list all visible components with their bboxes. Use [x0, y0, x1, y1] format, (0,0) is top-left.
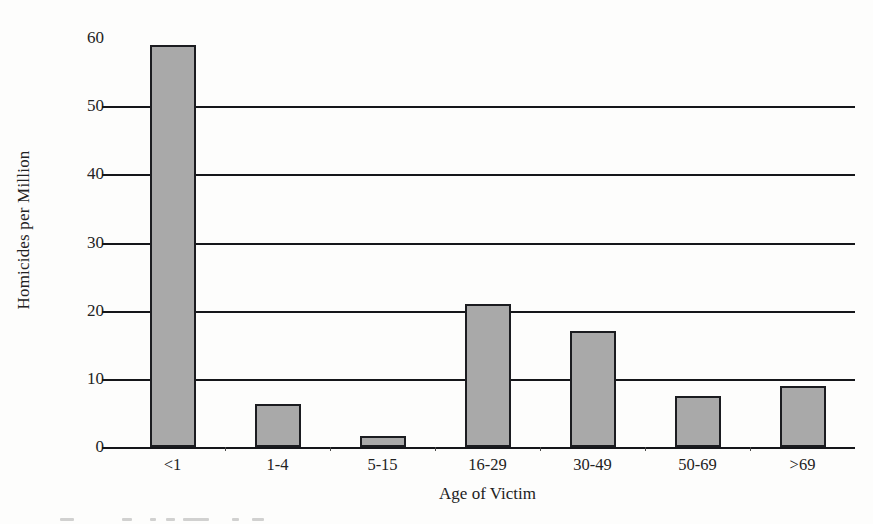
y-tick-label-30: 30 [58, 233, 104, 253]
y-axis-tick-labels: 0102030405060 [48, 38, 104, 447]
gridline-30 [102, 243, 855, 245]
x-tick-label-1-4: 1-4 [267, 455, 289, 475]
scan-artifact [122, 518, 132, 521]
scan-artifact [60, 518, 74, 521]
bar-16-29 [465, 304, 511, 447]
scan-artifact [252, 518, 264, 521]
scan-artifact-row [0, 512, 873, 524]
y-tick-label-0: 0 [58, 437, 104, 457]
x-axis-tick-0 [225, 447, 226, 451]
x-axis-tick-1 [330, 447, 331, 451]
y-tick-label-20: 20 [58, 301, 104, 321]
x-axis-line [102, 447, 855, 449]
x-axis-title: Age of Victim [120, 484, 855, 504]
bar-50-69 [675, 396, 721, 447]
bar-chart-figure: Homicides per Million 0102030405060 <11-… [0, 0, 873, 524]
scan-artifact [232, 518, 239, 521]
x-tick-label-50-69: 50-69 [678, 455, 717, 475]
y-axis-title-text: Homicides per Million [14, 150, 34, 309]
gridline-50 [102, 106, 855, 108]
y-tick-label-60: 60 [58, 28, 104, 48]
bar-5-15 [360, 436, 406, 447]
x-axis-tick-5 [750, 447, 751, 451]
x-tick-label->69: >69 [790, 455, 816, 475]
x-axis-tick-3 [540, 447, 541, 451]
x-tick-label-<1: <1 [164, 455, 182, 475]
bar-<1 [150, 45, 196, 447]
x-axis-tick-4 [645, 447, 646, 451]
y-tick-label-40: 40 [58, 164, 104, 184]
x-tick-label-16-29: 16-29 [468, 455, 507, 475]
scan-artifact [183, 518, 209, 521]
y-tick-label-10: 10 [58, 369, 104, 389]
y-tick-label-50: 50 [58, 96, 104, 116]
y-axis-title: Homicides per Million [0, 0, 48, 460]
plot-area [120, 38, 855, 447]
bar-30-49 [570, 331, 616, 447]
x-axis-tick-2 [435, 447, 436, 451]
scan-artifact [166, 518, 175, 521]
x-axis-tick-labels: <11-45-1516-2930-4950-69>69 [120, 455, 855, 481]
x-tick-label-5-15: 5-15 [367, 455, 397, 475]
gridline-40 [102, 174, 855, 176]
bar->69 [780, 386, 826, 447]
x-tick-label-30-49: 30-49 [573, 455, 612, 475]
bar-1-4 [255, 404, 301, 447]
scan-artifact [150, 518, 156, 521]
